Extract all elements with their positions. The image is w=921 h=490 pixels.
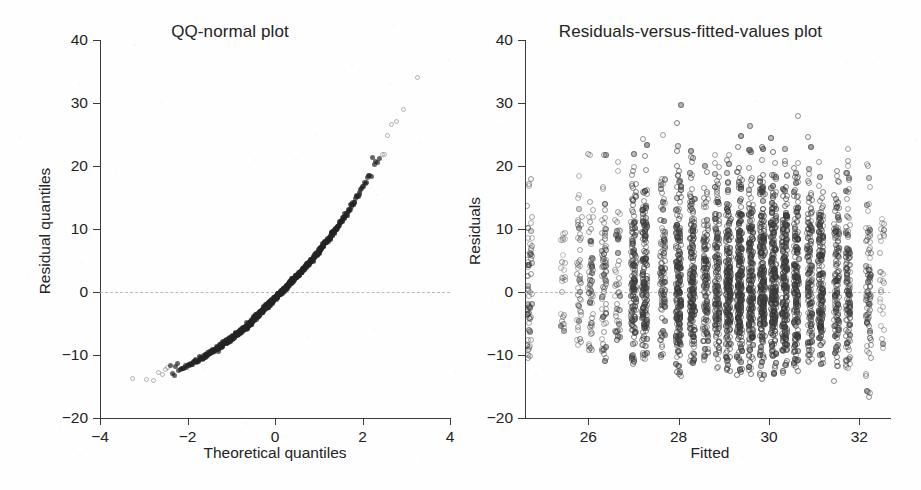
- rf-data-point: [576, 206, 582, 212]
- x-tick-label: −4: [91, 428, 109, 446]
- rf-data-point: [688, 148, 694, 154]
- rf-data-point: [806, 195, 812, 201]
- rf-data-point: [771, 232, 777, 238]
- rf-data-point: [867, 335, 873, 341]
- rf-data-point: [644, 142, 650, 148]
- rf-data-point: [836, 217, 842, 223]
- rf-data-point: [844, 213, 850, 219]
- rf-data-point: [768, 339, 774, 345]
- rf-data-point: [845, 252, 851, 258]
- paper-speck: [81, 262, 83, 264]
- paper-speck: [792, 463, 794, 465]
- rf-data-point: [878, 289, 884, 295]
- rf-data-point: [702, 277, 708, 283]
- rf-data-point: [831, 378, 837, 384]
- paper-speck: [586, 349, 588, 351]
- y-tick-mark: [93, 292, 100, 293]
- rf-data-point: [527, 289, 533, 295]
- rf-data-point: [746, 191, 752, 197]
- rf-data-point: [559, 278, 565, 284]
- rf-data-point: [675, 263, 681, 269]
- residuals-vs-fitted-title: Residuals-versus-fitted-values plot: [460, 22, 921, 42]
- qq-data-point: [369, 174, 374, 179]
- rf-data-point: [603, 355, 609, 361]
- rf-data-point: [715, 316, 721, 322]
- rf-data-point: [677, 213, 683, 219]
- paper-speck: [393, 25, 395, 27]
- rf-data-point: [689, 341, 695, 347]
- paper-speck: [439, 233, 441, 235]
- qq-data-point: [394, 119, 399, 124]
- x-tick-mark: [450, 418, 451, 425]
- rf-data-point: [880, 345, 886, 351]
- rf-data-point: [630, 202, 636, 208]
- rf-data-point: [640, 335, 646, 341]
- rf-data-point: [562, 260, 568, 266]
- paper-speck: [273, 234, 275, 236]
- y-tick-label: 40: [38, 31, 88, 49]
- rf-data-point: [736, 247, 742, 253]
- rf-data-point: [658, 204, 664, 210]
- rf-data-point: [674, 234, 680, 240]
- paper-speck: [246, 423, 248, 425]
- paper-speck: [307, 336, 309, 338]
- rf-data-point: [868, 272, 874, 278]
- x-tick-label: 4: [446, 428, 455, 446]
- x-tick-label: 32: [851, 428, 868, 446]
- rf-data-point: [762, 286, 768, 292]
- rf-data-point: [715, 364, 721, 370]
- rf-data-point: [834, 324, 840, 330]
- rf-data-point: [575, 219, 581, 225]
- rf-data-point: [780, 193, 786, 199]
- y-tick-mark: [518, 418, 525, 419]
- qq-data-point: [130, 376, 135, 381]
- rf-data-point: [704, 189, 710, 195]
- rf-data-point: [867, 245, 873, 251]
- rf-data-point: [642, 153, 648, 159]
- rf-data-point: [759, 376, 765, 382]
- rf-data-point: [818, 293, 824, 299]
- rf-data-point: [631, 151, 637, 157]
- rf-data-point: [601, 321, 607, 327]
- rf-data-point: [834, 168, 840, 174]
- rf-data-point: [526, 320, 532, 326]
- rf-data-point: [747, 316, 753, 322]
- rf-data-point: [867, 231, 873, 237]
- paper-speck: [293, 87, 295, 89]
- rf-data-point: [688, 221, 694, 227]
- rf-data-point: [736, 314, 742, 320]
- rf-data-point: [747, 303, 753, 309]
- qq-x-axis-label: Theoretical quantiles: [203, 444, 346, 462]
- rf-data-point: [747, 147, 753, 153]
- y-tick-label: −20: [463, 409, 513, 427]
- rf-data-point: [782, 161, 788, 167]
- y-tick-mark: [518, 40, 525, 41]
- rf-data-point: [770, 353, 776, 359]
- rf-data-point: [615, 250, 621, 256]
- rf-data-point: [738, 204, 744, 210]
- rf-data-point: [703, 204, 709, 210]
- paper-speck: [420, 141, 422, 143]
- rf-data-point: [724, 170, 730, 176]
- rf-data-point: [808, 144, 814, 150]
- paper-speck: [814, 314, 816, 316]
- rf-data-point: [847, 304, 853, 310]
- rf-data-point: [630, 341, 636, 347]
- rf-data-point: [640, 305, 646, 311]
- rf-data-point: [588, 328, 594, 334]
- rf-data-point: [738, 133, 744, 139]
- rf-data-point: [587, 199, 593, 205]
- x-tick-label: −2: [179, 428, 197, 446]
- rf-data-point: [724, 320, 730, 326]
- rf-data-point: [780, 239, 786, 245]
- paper-speck: [736, 221, 738, 223]
- rf-data-point: [712, 242, 718, 248]
- rf-data-point: [736, 357, 742, 363]
- rf-data-point: [759, 213, 765, 219]
- rf-data-point: [677, 304, 683, 310]
- rf-data-point: [864, 312, 870, 318]
- qq-data-point: [160, 372, 165, 377]
- rf-data-point: [529, 214, 535, 220]
- x-tick-label: 26: [580, 428, 597, 446]
- rf-data-point: [832, 229, 838, 235]
